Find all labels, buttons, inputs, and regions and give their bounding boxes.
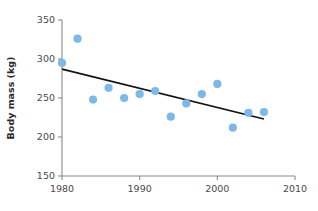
data-point: 2000: 268 [213, 80, 221, 88]
data-point: 1984: 248 [89, 95, 97, 103]
chart-canvas: 1980: 2951982: 3261984: 2481986: 2631988… [0, 0, 318, 211]
y-tick-label-200: 200 [37, 131, 55, 142]
chart-labels: 1502002503003501980199020002010Body mass… [5, 14, 307, 194]
data-point: 1994: 226 [167, 113, 175, 121]
y-tick-label-300: 300 [37, 53, 55, 64]
data-point: 2002: 212 [229, 124, 237, 132]
y-axis-title: Body mass (kg) [5, 57, 16, 140]
data-point: 1982: 326 [73, 35, 81, 43]
x-tick-label-2010: 2010 [283, 183, 307, 194]
x-tick-label-1980: 1980 [50, 183, 74, 194]
data-point: 1998: 255 [198, 90, 206, 98]
data-point: 1996: 243 [182, 99, 190, 107]
data-point: 1990: 255 [136, 90, 144, 98]
y-tick-label-250: 250 [37, 92, 55, 103]
trend-line [62, 69, 264, 119]
body-mass-scatter-chart: 1980: 2951982: 3261984: 2481986: 2631988… [0, 0, 318, 211]
data-points-group: 1980: 2951982: 3261984: 2481986: 2631988… [58, 35, 268, 132]
data-point: 1986: 263 [105, 84, 113, 92]
x-tick-label-2000: 2000 [205, 183, 229, 194]
data-point: 1980: 295 [58, 59, 66, 67]
x-tick-label-1990: 1990 [128, 183, 152, 194]
data-point: 2006: 232 [260, 108, 268, 116]
data-point: 1992: 259 [151, 87, 159, 95]
data-point: 2004: 231 [244, 109, 252, 117]
data-point: 1988: 250 [120, 94, 128, 102]
y-tick-label-150: 150 [37, 170, 55, 181]
y-tick-label-350: 350 [37, 14, 55, 25]
trend-line-group [62, 69, 264, 119]
